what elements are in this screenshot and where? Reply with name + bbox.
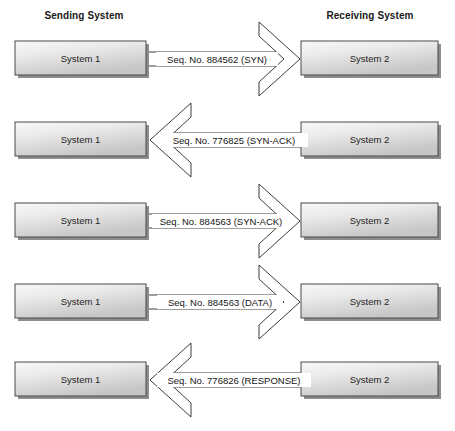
message-label: Seq. No. 884562 (SYN) (167, 54, 267, 65)
column-header-receiving: Receiving System (326, 10, 413, 21)
node-label-right: System 2 (350, 134, 390, 145)
node-label-left: System 1 (61, 134, 101, 145)
node-box-left: System 1 (15, 284, 149, 321)
node-label-left: System 1 (61, 215, 101, 226)
node-box-right: System 2 (301, 203, 441, 240)
message-label: Seq. No. 884563 (SYN-ACK) (160, 216, 283, 227)
node-box-right: System 2 (301, 41, 441, 78)
node-box-right: System 2 (301, 122, 441, 159)
diagram-canvas: Sending System Receiving System System 1… (0, 0, 455, 431)
node-label-left: System 1 (61, 53, 101, 64)
node-box-left: System 1 (15, 203, 149, 240)
message-label: Seq. No. 884563 (DATA) (168, 297, 272, 308)
node-box-right: System 2 (301, 362, 441, 399)
node-label-right: System 2 (350, 215, 390, 226)
node-label-right: System 2 (350, 374, 390, 385)
node-box-left: System 1 (15, 122, 149, 159)
node-label-left: System 1 (61, 296, 101, 307)
node-box-right: System 2 (301, 284, 441, 321)
node-box-left: System 1 (15, 41, 149, 78)
message-label: Seq. No. 776825 (SYN-ACK) (173, 135, 296, 146)
message-label: Seq. No. 776826 (RESPONSE) (167, 375, 300, 386)
node-label-right: System 2 (350, 296, 390, 307)
node-label-right: System 2 (350, 53, 390, 64)
node-label-left: System 1 (61, 374, 101, 385)
column-header-sending: Sending System (44, 10, 123, 21)
tcp-sequence-diagram: Sending System Receiving System System 1… (0, 0, 455, 431)
node-box-left: System 1 (15, 362, 149, 399)
